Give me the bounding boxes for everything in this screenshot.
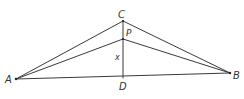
label-d: D [119,81,127,92]
label-x: x [114,53,120,62]
label-b: B [233,70,240,81]
point-p [122,38,124,40]
triangle-diagram: C P x A B D [0,0,244,99]
point-c [122,20,124,22]
label-c: C [118,9,125,20]
label-p: P [126,28,132,38]
point-a [15,78,17,80]
label-a: A [4,74,12,85]
segment-cb [123,21,230,73]
segment-ac [16,21,123,79]
segment-pb [123,39,230,73]
point-b [229,72,231,74]
segment-ap [16,39,123,79]
